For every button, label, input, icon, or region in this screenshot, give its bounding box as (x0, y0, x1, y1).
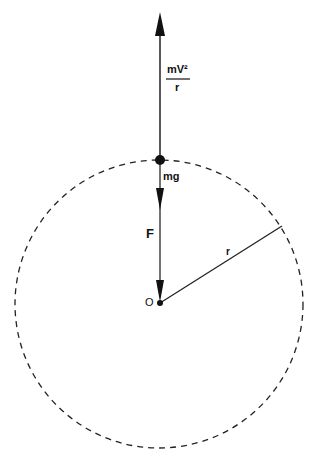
mass-point (155, 155, 165, 165)
radius-line (160, 226, 282, 303)
diagram-canvas (0, 0, 314, 462)
arrowhead-down-mg-icon (156, 188, 164, 210)
label-force: F (146, 226, 154, 241)
label-centripetal-denominator: r (175, 81, 179, 93)
arrowhead-up-icon (155, 12, 165, 36)
label-weight: mg (163, 170, 180, 182)
arrowhead-down-f-icon (156, 280, 164, 302)
label-center: O (145, 296, 154, 308)
center-point (157, 300, 163, 306)
label-centripetal-numerator: mV² (167, 63, 188, 75)
label-radius: r (226, 246, 230, 257)
